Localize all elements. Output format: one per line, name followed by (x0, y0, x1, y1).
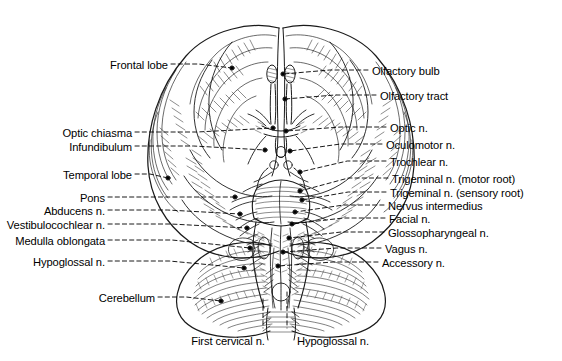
label-first-cervical-n: First cervical n. (191, 335, 265, 347)
label-medulla-oblongata: Medulla oblongata (15, 235, 105, 247)
optic-chiasm-region (248, 110, 314, 169)
leader-line (135, 174, 168, 178)
label-glossopharyngeal-n: Glossopharyngeal n. (388, 227, 489, 239)
leader-endpoint-dot (284, 129, 288, 133)
longitudinal-fissure (272, 28, 290, 176)
label-optic-chiasma: Optic chiasma (62, 127, 132, 139)
brainstem (252, 168, 310, 340)
leader-endpoint-dot (238, 212, 242, 216)
label-infundibulum: Infundibulum (69, 141, 132, 153)
leader-line (135, 146, 265, 150)
leader-line (290, 144, 382, 151)
right-cerebellar-hemisphere (290, 238, 385, 337)
label-cerebellum: Cerebellum (99, 292, 155, 304)
leader-line (286, 127, 386, 131)
label-pons: Pons (80, 192, 105, 204)
label-olfactory-tract: Olfactory tract (380, 90, 448, 102)
label-facial-n: Facial n. (389, 213, 430, 225)
leader-line (108, 240, 250, 248)
leader-line (283, 70, 368, 74)
leader-line (292, 218, 385, 224)
leader-endpoint-dot (230, 66, 234, 70)
leader-line (302, 192, 386, 200)
leader-endpoint-dot (271, 126, 275, 130)
leader-line (285, 95, 376, 99)
leader-line (108, 224, 247, 228)
label-abducens-n: Abducens n. (44, 205, 105, 217)
left-cerebellar-hemisphere (177, 238, 272, 337)
cerebellar-vermis (272, 248, 290, 308)
leader-line (135, 128, 273, 132)
leader-line (158, 297, 221, 301)
leader-endpoint-dot (242, 266, 246, 270)
leader-endpoint-dot (288, 149, 292, 153)
leader-endpoint-dot (245, 226, 249, 230)
leader-line (278, 262, 378, 266)
label-nervus-intermedius: Nervus intermedius (388, 200, 483, 212)
leader-endpoint-markers (166, 66, 304, 303)
leader-endpoint-dot (281, 250, 285, 254)
label-hypoglossal-n-left: Hypoglossal n. (33, 256, 105, 268)
label-frontal-lobe: Frontal lobe (110, 59, 168, 71)
label-trigeminal-n-motor-root: Trigeminal n. (motor root) (392, 173, 515, 185)
label-optic-n: Optic n. (390, 122, 428, 134)
leader-endpoint-dot (276, 264, 280, 268)
leader-line (108, 210, 240, 214)
cranial-nerve-rootlets (230, 172, 332, 331)
leader-line (108, 261, 244, 268)
leader-line (300, 178, 388, 191)
leader-endpoint-dot (166, 176, 170, 180)
leader-endpoint-dot (233, 195, 237, 199)
label-oculomotor-n: Oculomotor n. (386, 139, 455, 151)
leader-endpoint-dot (281, 72, 285, 76)
leader-endpoint-dot (283, 97, 287, 101)
leader-endpoint-dot (219, 299, 223, 303)
leader-line (300, 161, 386, 172)
leader-endpoint-dot (263, 148, 267, 152)
leader-endpoint-dot (293, 210, 297, 214)
label-temporal-lobe: Temporal lobe (63, 169, 132, 181)
leader-endpoint-dot (298, 170, 302, 174)
leader-endpoint-dot (248, 246, 252, 250)
label-trigeminal-n-sensory-root: Trigeminal n. (sensory root) (390, 187, 524, 199)
label-vagus-n: Vagus n. (385, 243, 428, 255)
leader-line (289, 232, 384, 238)
leader-endpoint-dot (300, 198, 304, 202)
label-accessory-n: Accessory n. (382, 257, 445, 269)
label-trochlear-n: Trochlear n. (390, 156, 448, 168)
leader-line (295, 205, 384, 212)
label-olfactory-bulb: Olfactory bulb (372, 65, 440, 77)
leader-lines (108, 64, 388, 328)
leader-endpoint-dot (290, 222, 294, 226)
label-vestibulocochlear-n: Vestibulocochlear n. (7, 219, 105, 231)
leader-endpoint-dot (287, 236, 291, 240)
leader-line (283, 248, 381, 252)
leader-endpoint-dot (298, 189, 302, 193)
leader-line (171, 64, 232, 68)
olfactory-structures (267, 65, 295, 124)
label-hypoglossal-n-bottom: Hypoglossal n. (297, 335, 369, 347)
anatomical-figure: Frontal lobeOptic chiasmaInfundibulumTem… (0, 0, 562, 361)
